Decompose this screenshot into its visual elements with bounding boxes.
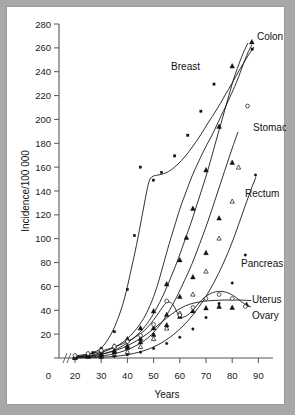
y-tick-label: 260 bbox=[35, 42, 51, 53]
series-colon bbox=[73, 40, 254, 359]
series-label-ovary: Ovary bbox=[252, 310, 279, 321]
series-label-stomach: Stomach bbox=[253, 122, 286, 133]
y-axis-title: Incidence/100 000 bbox=[20, 150, 31, 232]
y-tick-label: 20 bbox=[40, 329, 51, 340]
y-axis bbox=[54, 24, 59, 358]
figure-frame: 280 260 240 220 200 180 160 140 120 100 … bbox=[6, 6, 285, 405]
series-label-uterus: Uterus bbox=[252, 294, 281, 305]
x-tick-label: 70 bbox=[201, 370, 212, 381]
x-tick-label: 50 bbox=[148, 370, 159, 381]
series-label-colon: Colon bbox=[257, 31, 283, 42]
x-tick-labels: 20 30 40 50 60 70 80 90 bbox=[70, 370, 264, 381]
series-ovary bbox=[73, 291, 251, 357]
x-tick-label: 30 bbox=[96, 370, 107, 381]
y-tick-label: 100 bbox=[35, 233, 51, 244]
y-tick-label: 120 bbox=[35, 209, 51, 220]
x-axis-title: Years bbox=[154, 389, 179, 400]
chart-plot-area: 280 260 240 220 200 180 160 140 120 100 … bbox=[7, 7, 286, 406]
x-tick-label: 60 bbox=[175, 370, 186, 381]
x-tick-label: 20 bbox=[70, 370, 81, 381]
series-label-breast: Breast bbox=[171, 61, 200, 72]
y-tick-labels: 280 260 240 220 200 180 160 140 120 100 … bbox=[35, 19, 51, 382]
y-tick-label: 160 bbox=[35, 162, 51, 173]
y-tick-label: 60 bbox=[40, 281, 51, 292]
y-tick-label: 40 bbox=[40, 305, 51, 316]
y-tick-label: 180 bbox=[35, 138, 51, 149]
series-label-rectum: Rectum bbox=[245, 188, 279, 199]
y-tick-label: 200 bbox=[35, 114, 51, 125]
series-pancreas bbox=[75, 174, 257, 359]
y-tick-label: 80 bbox=[40, 257, 51, 268]
series-stomach bbox=[73, 43, 250, 358]
series-breast bbox=[74, 47, 254, 358]
x-tick-label: 80 bbox=[227, 370, 238, 381]
y-tick-label: 0 bbox=[46, 370, 51, 381]
y-tick-label: 140 bbox=[35, 186, 51, 197]
y-tick-label: 220 bbox=[35, 90, 51, 101]
y-tick-label: 240 bbox=[35, 66, 51, 77]
series-label-pancreas: Pancreas bbox=[241, 258, 283, 269]
y-tick-label: 280 bbox=[35, 19, 51, 30]
x-tick-label: 90 bbox=[253, 370, 264, 381]
series-rectum bbox=[73, 132, 241, 360]
x-tick-label: 40 bbox=[122, 370, 133, 381]
